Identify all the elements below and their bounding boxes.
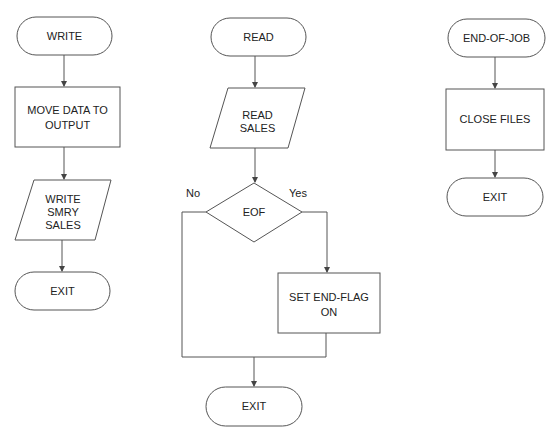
close-files-process: CLOSE FILES bbox=[446, 89, 544, 150]
move-data-process: MOVE DATA TO OUTPUT bbox=[15, 87, 120, 147]
end-of-job-exit-label: EXIT bbox=[483, 191, 508, 203]
write-flow: WRITE MOVE DATA TO OUTPUT WRITE SMRY SAL… bbox=[15, 17, 120, 310]
end-of-job-exit-terminal: EXIT bbox=[447, 178, 543, 216]
set-end-flag-process: SET END-FLAG ON bbox=[278, 273, 380, 333]
eof-decision: EOF bbox=[206, 183, 302, 242]
read-exit-terminal: EXIT bbox=[206, 387, 302, 426]
merge-connector bbox=[254, 333, 326, 357]
end-of-job-terminal: END-OF-JOB bbox=[448, 19, 545, 57]
read-start-terminal: READ bbox=[211, 18, 306, 56]
move-data-label-line2: OUTPUT bbox=[45, 119, 91, 131]
write-smry-label-line1: WRITE bbox=[45, 193, 80, 205]
end-of-job-label: END-OF-JOB bbox=[463, 32, 530, 44]
read-flow: READ READ SALES EOF No Yes SET END-FLAG … bbox=[182, 18, 380, 426]
read-sales-label-line2: SALES bbox=[240, 122, 275, 134]
yes-branch-connector bbox=[302, 212, 327, 272]
write-smry-label-line3: SALES bbox=[45, 219, 80, 231]
read-start-label: READ bbox=[243, 31, 274, 43]
read-sales-label-line1: READ bbox=[242, 109, 273, 121]
read-exit-label: EXIT bbox=[242, 400, 267, 412]
move-data-label-line1: MOVE DATA TO bbox=[27, 104, 108, 116]
set-flag-label-line2: ON bbox=[321, 306, 338, 318]
read-sales-io: READ SALES bbox=[210, 88, 305, 148]
write-exit-terminal: EXIT bbox=[15, 272, 110, 310]
close-files-label: CLOSE FILES bbox=[460, 113, 531, 125]
flowchart-canvas: WRITE MOVE DATA TO OUTPUT WRITE SMRY SAL… bbox=[0, 0, 555, 433]
write-start-terminal: WRITE bbox=[17, 17, 112, 55]
write-smry-label-line2: SMRY bbox=[47, 206, 79, 218]
branch-no-label: No bbox=[186, 187, 200, 199]
end-of-job-flow: END-OF-JOB CLOSE FILES EXIT bbox=[446, 19, 545, 216]
write-exit-label: EXIT bbox=[50, 285, 75, 297]
write-start-label: WRITE bbox=[47, 30, 82, 42]
branch-yes-label: Yes bbox=[289, 187, 307, 199]
write-smry-io: WRITE SMRY SALES bbox=[15, 180, 111, 240]
eof-label: EOF bbox=[243, 206, 266, 218]
set-flag-label-line1: SET END-FLAG bbox=[289, 291, 369, 303]
